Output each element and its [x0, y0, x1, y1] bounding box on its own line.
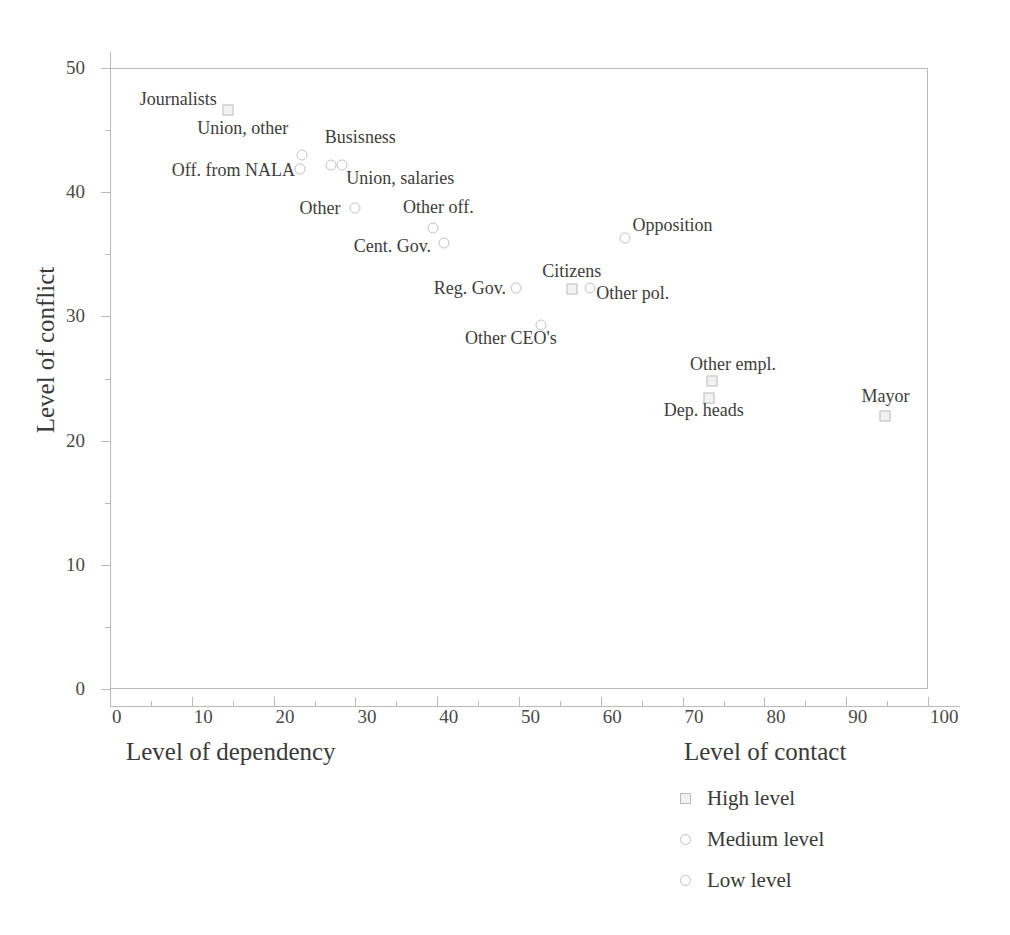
data-point-marker[interactable]: [880, 410, 891, 421]
data-point-label: Other pol.: [596, 283, 669, 304]
scatter-chart: 010203040506070809010001020304050 Journa…: [0, 0, 1010, 935]
x-tick: [355, 697, 356, 706]
y-axis-line: [110, 52, 111, 707]
x-tick: [192, 697, 193, 706]
legend-item[interactable]: Low level: [680, 860, 824, 901]
y-tick-label: 30: [66, 305, 85, 327]
legend-item-label: High level: [707, 786, 795, 811]
x-tick-minor: [233, 701, 234, 706]
x-tick-minor: [887, 701, 888, 706]
data-point-label: Off. from NALA: [172, 160, 295, 181]
circle-marker-icon: [680, 875, 691, 886]
x-tick: [519, 697, 520, 706]
x-tick-label: 20: [276, 706, 295, 728]
x-tick-minor: [151, 701, 152, 706]
x-tick: [110, 697, 111, 706]
data-point-label: Citizens: [542, 261, 601, 282]
x-tick-minor: [315, 701, 316, 706]
y-tick-minor: [105, 379, 110, 380]
y-tick: [101, 689, 110, 690]
x-tick-label: 90: [848, 706, 867, 728]
y-tick-label: 10: [66, 554, 85, 576]
x-tick-label: 100: [930, 706, 959, 728]
x-tick-label: 0: [112, 706, 122, 728]
y-tick-label: 20: [66, 430, 85, 452]
data-point-marker[interactable]: [438, 238, 449, 249]
data-point-marker[interactable]: [585, 282, 596, 293]
y-tick-label: 40: [66, 181, 85, 203]
x-tick: [601, 697, 602, 706]
data-point-marker[interactable]: [428, 223, 439, 234]
y-tick: [101, 68, 110, 69]
x-axis-title-dependency: Level of dependency: [126, 738, 336, 766]
y-tick: [101, 441, 110, 442]
x-tick: [274, 697, 275, 706]
data-point-marker[interactable]: [222, 105, 233, 116]
y-tick-label: 0: [76, 678, 86, 700]
y-tick: [101, 565, 110, 566]
data-point-marker[interactable]: [619, 233, 630, 244]
y-tick-minor: [105, 254, 110, 255]
data-point-marker[interactable]: [294, 163, 305, 174]
x-tick-minor: [396, 701, 397, 706]
data-point-label: Cent. Gov.: [354, 236, 431, 257]
x-tick-label: 10: [194, 706, 213, 728]
x-tick-label: 50: [521, 706, 540, 728]
x-tick-label: 70: [685, 706, 704, 728]
data-point-marker[interactable]: [325, 159, 336, 170]
chart-legend: High levelMedium levelLow level: [680, 778, 824, 901]
data-point-marker[interactable]: [510, 282, 521, 293]
x-tick-minor: [560, 701, 561, 706]
x-tick: [683, 697, 684, 706]
data-point-marker[interactable]: [707, 375, 718, 386]
data-point-label: Other off.: [403, 197, 474, 218]
square-marker-icon: [680, 793, 691, 804]
x-tick-minor: [724, 701, 725, 706]
data-point-label: Opposition: [633, 215, 713, 236]
x-tick-label: 80: [766, 706, 785, 728]
data-point-label: Mayor: [861, 386, 909, 407]
x-axis-title-contact: Level of contact: [684, 738, 846, 766]
data-point-marker[interactable]: [297, 149, 308, 160]
x-tick-minor: [642, 701, 643, 706]
y-tick: [101, 192, 110, 193]
data-point-label: Journalists: [140, 89, 217, 110]
x-tick: [437, 697, 438, 706]
x-tick-minor: [478, 701, 479, 706]
x-tick-label: 30: [357, 706, 376, 728]
x-tick-label: 60: [603, 706, 622, 728]
data-point-label: Busisness: [325, 127, 396, 148]
x-tick: [846, 697, 847, 706]
data-point-label: Other empl.: [690, 354, 776, 375]
legend-item-label: Medium level: [707, 827, 824, 852]
data-point-label: Reg. Gov.: [434, 278, 506, 299]
y-axis-title-conflict: Level of conflict: [32, 267, 60, 434]
data-point-label: Other: [299, 198, 340, 219]
x-tick-label: 40: [439, 706, 458, 728]
y-tick-minor: [105, 503, 110, 504]
data-point-label: Dep. heads: [664, 400, 744, 421]
y-tick-minor: [105, 130, 110, 131]
data-point-label: Other CEO's: [465, 328, 557, 349]
legend-item[interactable]: Medium level: [680, 819, 824, 860]
y-tick-minor: [105, 627, 110, 628]
legend-item-label: Low level: [707, 868, 792, 893]
circle-marker-icon: [680, 834, 691, 845]
x-tick: [928, 697, 929, 706]
x-tick: [764, 697, 765, 706]
data-point-label: Union, salaries: [346, 168, 454, 189]
y-tick-label: 50: [66, 57, 85, 79]
legend-item[interactable]: High level: [680, 778, 824, 819]
data-point-label: Union, other: [197, 118, 288, 139]
x-tick-minor: [805, 701, 806, 706]
y-tick: [101, 316, 110, 317]
data-point-marker[interactable]: [567, 284, 578, 295]
data-point-marker[interactable]: [350, 203, 361, 214]
